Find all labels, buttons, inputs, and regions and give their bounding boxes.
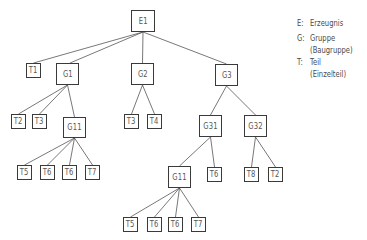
node-label: G3 — [222, 71, 232, 80]
product-structure-diagram: E1 T1 G1 G2 G3 T2 T3 G11 T3 T4 G31 G32 T… — [0, 0, 367, 240]
node-t6-g31: T6 — [207, 167, 222, 182]
legend-key: T: — [297, 58, 303, 67]
node-label: T1 — [29, 66, 38, 75]
legend-text: Teil — [310, 58, 321, 67]
node-t2-g32: T2 — [268, 167, 283, 182]
legend-key: G: — [297, 34, 305, 43]
node-label: T7 — [88, 168, 97, 177]
node-g1: G1 — [56, 63, 79, 85]
edge-e1-t1 — [34, 32, 144, 63]
node-e1: E1 — [131, 10, 155, 32]
node-t7-lower: T7 — [191, 217, 206, 232]
node-label: T5 — [20, 168, 29, 177]
node-label: T6 — [65, 168, 74, 177]
edge-g1-t2 — [19, 85, 68, 114]
node-t4: T4 — [147, 114, 162, 129]
edge-g11-t7 — [75, 138, 93, 165]
node-label: G11 — [67, 123, 81, 132]
legend-text: (Einzelteil) — [310, 70, 346, 79]
node-label: G32 — [248, 122, 262, 131]
edge-g32-t2 — [256, 137, 276, 167]
node-g31: G31 — [199, 115, 222, 137]
edge-g3-g32 — [227, 86, 256, 115]
node-label: T3 — [35, 117, 44, 126]
node-g11: G11 — [63, 117, 86, 138]
node-label: T2 — [271, 170, 280, 179]
node-g3: G3 — [215, 64, 238, 86]
node-t1: T1 — [26, 63, 41, 78]
node-t5: T5 — [17, 165, 32, 180]
node-label: G11 — [172, 173, 186, 182]
edge-e1-g2 — [143, 32, 144, 63]
node-t6: T6 — [40, 165, 55, 180]
edge-g3-g31 — [211, 86, 227, 115]
edge-g1-g11 — [68, 85, 75, 117]
node-label: E1 — [139, 17, 148, 26]
node-label: G31 — [203, 122, 217, 131]
node-label: G2 — [138, 70, 148, 79]
node-t6-lower: T6 — [168, 217, 183, 232]
node-t7: T7 — [85, 165, 100, 180]
node-label: T6 — [150, 220, 159, 229]
node-label: T6 — [43, 168, 52, 177]
node-t2: T2 — [11, 114, 26, 129]
edge-e1-g3 — [143, 32, 227, 64]
edge-g11b-t7 — [180, 188, 199, 217]
edge-g31-g11 — [180, 137, 211, 166]
node-t6: T6 — [62, 165, 77, 180]
node-label: T2 — [14, 117, 23, 126]
edge-g11b-t5 — [131, 188, 180, 217]
legend-text: (Baugruppe) — [310, 46, 353, 55]
node-label: T5 — [126, 220, 135, 229]
node-label: T7 — [194, 220, 203, 229]
node-t8: T8 — [244, 167, 259, 182]
edge-g2-t3 — [132, 85, 143, 114]
edge-g32-t8 — [252, 137, 256, 167]
node-label: G1 — [63, 70, 73, 79]
legend-text: Erzeugnis — [310, 19, 343, 28]
edge-e1-g1 — [70, 32, 143, 63]
node-g2: G2 — [131, 63, 154, 85]
node-label: T4 — [150, 117, 159, 126]
legend-text: Gruppe — [310, 34, 335, 43]
node-g11-lower: G11 — [168, 166, 191, 188]
node-label: T6 — [171, 220, 180, 229]
legend-key: E: — [297, 19, 304, 28]
node-g32: G32 — [244, 115, 267, 137]
node-label: T6 — [210, 170, 219, 179]
node-t3-g2: T3 — [124, 114, 139, 129]
node-t6-lower: T6 — [147, 217, 162, 232]
edge-g2-t4 — [143, 85, 155, 114]
node-t5-lower: T5 — [123, 217, 138, 232]
node-label: T8 — [247, 170, 256, 179]
node-label: T3 — [127, 117, 136, 126]
node-t3: T3 — [32, 114, 47, 129]
edge-g31-t6 — [211, 137, 215, 167]
edge-g11-t5 — [25, 138, 75, 165]
